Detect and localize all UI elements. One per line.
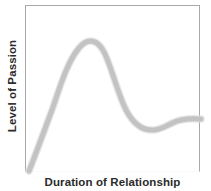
- plot-area: [25, 5, 200, 172]
- chart-figure: Level of Passion Duration of Relationshi…: [0, 0, 211, 191]
- passion-curve: [29, 41, 201, 171]
- y-axis-label-text: Level of Passion: [6, 40, 18, 132]
- passion-curve-svg: [26, 6, 201, 173]
- x-axis-label: Duration of Relationship: [25, 176, 200, 188]
- y-axis-label: Level of Passion: [0, 0, 24, 172]
